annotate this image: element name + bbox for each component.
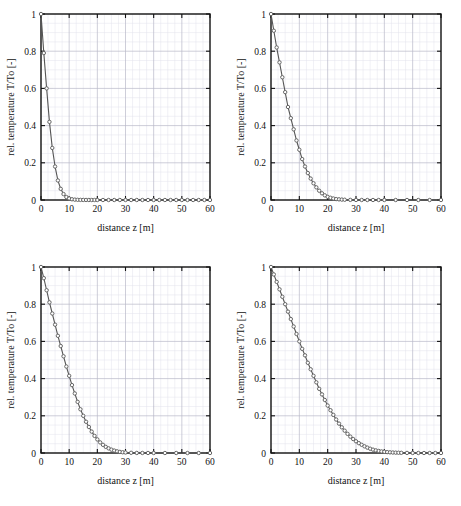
data-point-marker bbox=[303, 165, 306, 168]
chart-panel-top-left: 010203040506000.20.40.60.81distance z [m… bbox=[0, 0, 230, 253]
data-point-marker bbox=[286, 105, 289, 108]
data-point-marker bbox=[289, 317, 292, 320]
y-tick-label: 0.4 bbox=[254, 121, 266, 131]
y-tick-label: 0.2 bbox=[24, 411, 36, 421]
data-point-marker bbox=[51, 146, 54, 149]
data-point-marker bbox=[428, 198, 431, 201]
data-point-marker bbox=[283, 303, 286, 306]
x-tick-label: 0 bbox=[39, 204, 44, 214]
y-tick-label: 0 bbox=[31, 449, 36, 459]
chart-svg-bottom-right: 010203040506000.20.40.60.81distance z [m… bbox=[230, 253, 461, 506]
data-point-marker bbox=[292, 325, 295, 328]
data-point-marker bbox=[146, 451, 149, 454]
x-tick-label: 30 bbox=[351, 457, 361, 467]
data-point-marker bbox=[175, 198, 178, 201]
data-point-marker bbox=[146, 198, 149, 201]
data-point-marker bbox=[113, 198, 116, 201]
data-point-marker bbox=[65, 365, 68, 368]
data-point-marker bbox=[303, 354, 306, 357]
data-point-marker bbox=[340, 426, 343, 429]
data-point-marker bbox=[354, 198, 357, 201]
data-point-marker bbox=[417, 198, 420, 201]
data-point-marker bbox=[152, 198, 155, 201]
data-point-marker bbox=[129, 198, 132, 201]
y-tick-label: 1 bbox=[261, 10, 266, 20]
x-tick-label: 30 bbox=[351, 204, 361, 214]
x-tick-label: 10 bbox=[64, 204, 74, 214]
data-point-marker bbox=[343, 198, 346, 201]
x-tick-label: 60 bbox=[436, 204, 446, 214]
y-tick-label: 0 bbox=[31, 196, 36, 206]
data-point-marker bbox=[62, 192, 65, 195]
data-point-marker bbox=[315, 381, 318, 384]
y-tick-label: 0 bbox=[261, 449, 266, 459]
data-point-marker bbox=[272, 29, 275, 32]
chart-panel-top-right: 010203040506000.20.40.60.81distance z [m… bbox=[230, 0, 461, 253]
x-tick-label: 40 bbox=[380, 204, 390, 214]
data-point-marker bbox=[93, 434, 96, 437]
data-point-marker bbox=[203, 198, 206, 201]
x-tick-label: 50 bbox=[177, 204, 187, 214]
data-point-marker bbox=[400, 451, 403, 454]
chart-panel-bottom-left: 010203040506000.20.40.60.81distance z [m… bbox=[0, 253, 230, 506]
data-point-marker bbox=[405, 198, 408, 201]
data-point-marker bbox=[289, 116, 292, 119]
data-point-marker bbox=[312, 374, 315, 377]
chart-panel-bottom-right: 010203040506000.20.40.60.81distance z [m… bbox=[230, 253, 461, 506]
data-point-marker bbox=[79, 408, 82, 411]
y-tick-label: 0 bbox=[261, 196, 266, 206]
chart-svg-top-left: 010203040506000.20.40.60.81distance z [m… bbox=[0, 0, 230, 253]
x-tick-label: 30 bbox=[121, 457, 131, 467]
data-point-marker bbox=[82, 414, 85, 417]
y-tick-label: 0.8 bbox=[24, 47, 36, 57]
data-point-marker bbox=[53, 165, 56, 168]
data-point-marker bbox=[283, 90, 286, 93]
data-point-marker bbox=[320, 393, 323, 396]
tick-labels: 010203040506000.20.40.60.81 bbox=[24, 263, 215, 468]
data-point-marker bbox=[101, 198, 104, 201]
data-point-marker bbox=[59, 344, 62, 347]
data-point-marker bbox=[73, 392, 76, 395]
x-axis-label: distance z [m] bbox=[328, 475, 385, 486]
data-point-marker bbox=[107, 198, 110, 201]
x-tick-label: 20 bbox=[323, 204, 333, 214]
data-point-marker bbox=[269, 12, 272, 15]
x-tick-label: 50 bbox=[177, 457, 187, 467]
data-point-marker bbox=[169, 198, 172, 201]
data-point-marker bbox=[96, 438, 99, 441]
data-point-marker bbox=[295, 332, 298, 335]
data-point-marker bbox=[383, 198, 386, 201]
data-point-marker bbox=[158, 198, 161, 201]
y-tick-label: 0.6 bbox=[24, 337, 36, 347]
data-point-marker bbox=[306, 361, 309, 364]
y-tick-label: 0.8 bbox=[254, 300, 266, 310]
y-tick-label: 1 bbox=[31, 263, 36, 273]
data-point-marker bbox=[180, 198, 183, 201]
data-point-marker bbox=[59, 187, 62, 190]
y-tick-label: 0.8 bbox=[24, 300, 36, 310]
data-point-marker bbox=[326, 404, 329, 407]
data-point-marker bbox=[428, 451, 431, 454]
data-point-marker bbox=[175, 451, 178, 454]
data-point-marker bbox=[186, 451, 189, 454]
data-point-marker bbox=[337, 422, 340, 425]
figure-panel-grid: 010203040506000.20.40.60.81distance z [m… bbox=[0, 0, 461, 506]
data-point-marker bbox=[298, 340, 301, 343]
data-point-marker bbox=[411, 451, 414, 454]
y-tick-label: 1 bbox=[31, 10, 36, 20]
data-point-marker bbox=[56, 179, 59, 182]
data-point-marker bbox=[272, 273, 275, 276]
x-tick-label: 10 bbox=[64, 457, 74, 467]
x-tick-label: 0 bbox=[269, 457, 274, 467]
x-tick-label: 50 bbox=[408, 204, 418, 214]
data-point-marker bbox=[300, 157, 303, 160]
x-tick-label: 40 bbox=[149, 457, 159, 467]
x-tick-label: 40 bbox=[149, 204, 159, 214]
y-tick-label: 0.6 bbox=[24, 84, 36, 94]
data-point-marker bbox=[422, 451, 425, 454]
y-axis-label: rel. temperature T/To [-] bbox=[235, 311, 246, 408]
y-tick-label: 0.2 bbox=[254, 411, 266, 421]
x-axis-label: distance z [m] bbox=[328, 222, 385, 233]
y-tick-label: 0.6 bbox=[254, 84, 266, 94]
data-point-marker bbox=[394, 198, 397, 201]
